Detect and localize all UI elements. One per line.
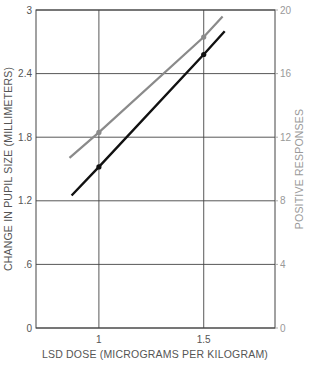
left-tick-label: 3: [26, 5, 32, 16]
grid-lines: [36, 10, 275, 328]
data-series: [70, 16, 225, 195]
data-point-marker: [96, 130, 101, 135]
right-tick-label: 8: [280, 195, 286, 206]
data-point-marker: [201, 52, 206, 57]
x-tick-label: 1.5: [197, 334, 211, 345]
right-y-axis-ticks: 048121620: [275, 5, 292, 334]
right-y-axis-label: POSITIVE RESPONSES: [293, 109, 305, 229]
left-tick-label: .6: [24, 259, 33, 270]
left-y-axis-label: CHANGE IN PUPIL SIZE (MILLIMETERS): [2, 67, 14, 271]
right-tick-label: 4: [280, 259, 286, 270]
left-tick-label: 0: [26, 323, 32, 334]
data-point-marker: [201, 34, 206, 39]
right-tick-label: 16: [280, 68, 292, 79]
lsd-dose-response-chart: 0.61.21.82.43 048121620 11.5 LSD DOSE (M…: [0, 0, 311, 367]
data-point-marker: [96, 164, 101, 169]
positive-responses-line: [70, 16, 223, 158]
right-tick-label: 12: [280, 132, 292, 143]
x-axis-ticks: 11.5: [96, 334, 211, 345]
right-tick-label: 20: [280, 5, 292, 16]
left-tick-label: 1.2: [18, 195, 32, 206]
x-tick-label: 1: [96, 334, 102, 345]
x-axis-label: LSD DOSE (MICROGRAMS PER KILOGRAM): [42, 348, 268, 360]
left-y-axis-ticks: 0.61.21.82.43: [18, 5, 32, 334]
plot-frame: [36, 10, 275, 328]
right-tick-label: 0: [280, 323, 286, 334]
left-tick-label: 1.8: [18, 132, 32, 143]
left-tick-label: 2.4: [18, 68, 32, 79]
